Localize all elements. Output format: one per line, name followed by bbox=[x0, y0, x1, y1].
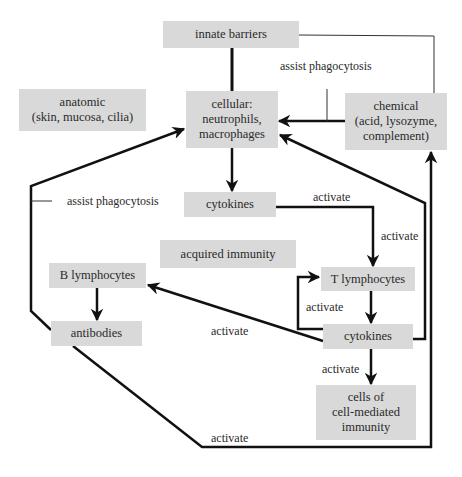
node-b-lymphocytes: B lymphocytes bbox=[49, 263, 146, 288]
node-anatomic: anatomic (skin, mucosa, cilia) bbox=[19, 89, 146, 131]
node-cellular-label: cellular: neutrophils, macrophages bbox=[199, 97, 265, 142]
node-cytokines-innate: cytokines bbox=[184, 192, 276, 217]
node-antibodies: antibodies bbox=[51, 321, 142, 346]
node-cytokines-acquired: cytokines bbox=[323, 324, 413, 349]
node-cell-mediated: cells of cell-mediated immunity bbox=[316, 385, 416, 440]
node-cell-mediated-label: cells of cell-mediated immunity bbox=[332, 390, 400, 435]
label-activate-to-cells: activate bbox=[322, 362, 359, 377]
node-innate-barriers-label: innate barriers bbox=[195, 27, 267, 42]
node-innate-barriers: innate barriers bbox=[163, 21, 299, 48]
edge-antibodies-to-cellular bbox=[31, 129, 184, 330]
node-chemical-label: chemical (acid, lysozyme, complement) bbox=[355, 99, 437, 144]
label-activate-loop: activate bbox=[306, 300, 343, 315]
node-b-lymphocytes-label: B lymphocytes bbox=[60, 268, 135, 283]
label-activate-to-t: activate bbox=[381, 229, 418, 244]
label-activate-antibodies-chemical: activate bbox=[211, 431, 248, 446]
node-cytokines-acquired-label: cytokines bbox=[344, 329, 392, 344]
node-antibodies-label: antibodies bbox=[71, 326, 122, 341]
label-activate-to-b: activate bbox=[211, 324, 248, 339]
node-t-lymphocytes-label: T lymphocytes bbox=[331, 272, 405, 287]
node-cytokines-innate-label: cytokines bbox=[206, 197, 254, 212]
node-acquired-immunity-label: acquired immunity bbox=[181, 247, 276, 262]
node-cellular: cellular: neutrophils, macrophages bbox=[186, 91, 278, 148]
label-activate-cytokines-right: activate bbox=[313, 190, 350, 205]
node-acquired-immunity: acquired immunity bbox=[160, 240, 296, 268]
label-assist-phagocytosis-top: assist phagocytosis bbox=[280, 59, 372, 74]
node-t-lymphocytes: T lymphocytes bbox=[321, 267, 415, 291]
node-chemical: chemical (acid, lysozyme, complement) bbox=[345, 93, 447, 150]
node-anatomic-label: anatomic (skin, mucosa, cilia) bbox=[32, 95, 133, 125]
label-assist-phagocytosis-left: assist phagocytosis bbox=[67, 194, 159, 209]
